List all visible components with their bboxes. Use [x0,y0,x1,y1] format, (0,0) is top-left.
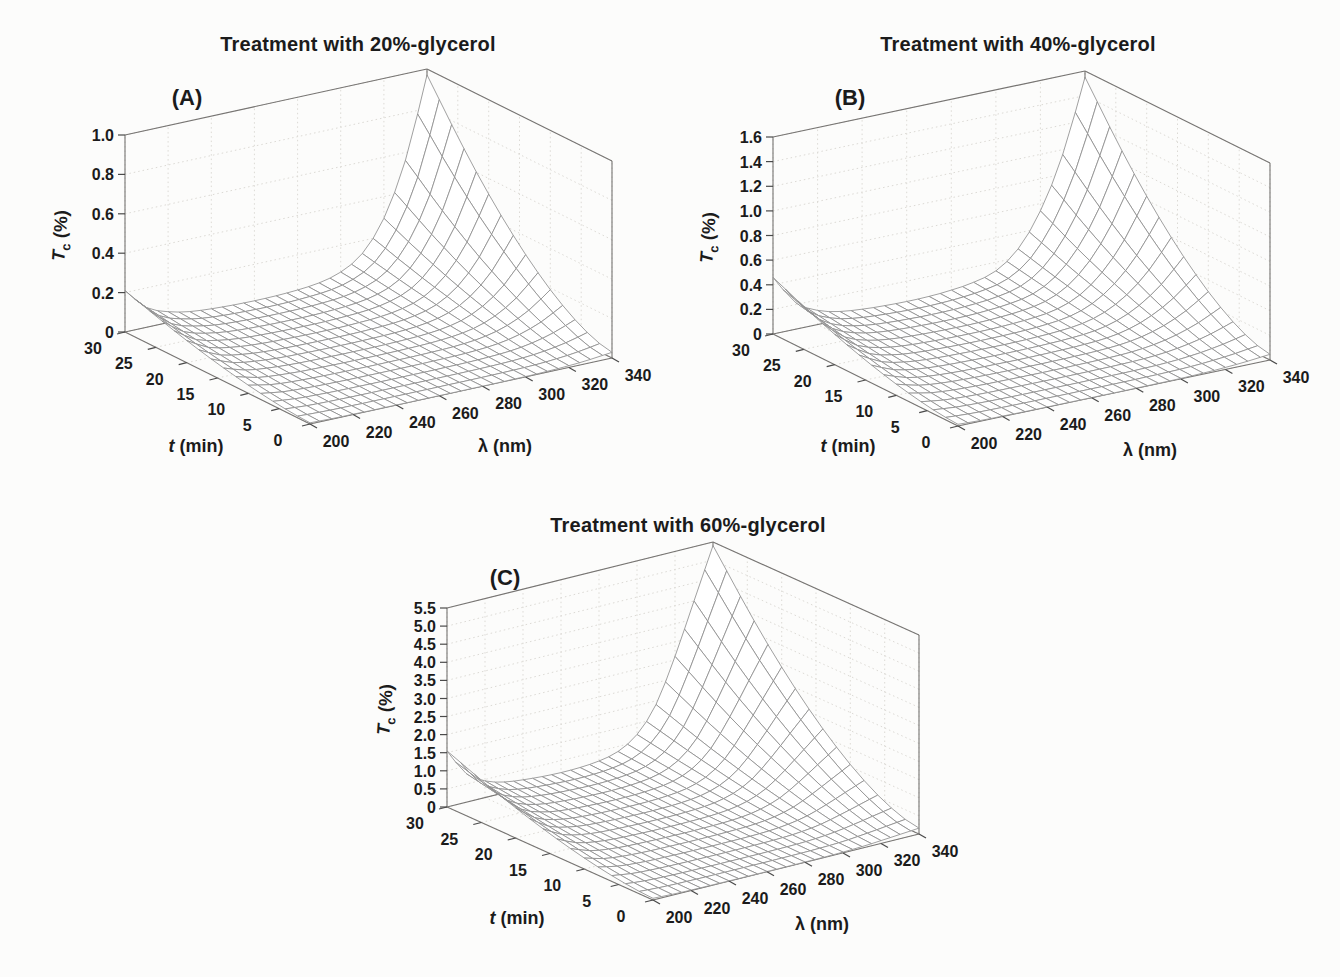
panel-a-z-tick-label: 0.6 [92,206,114,223]
panel-a-t-tick-label: 30 [84,340,102,357]
panel-a: 00.20.40.60.81.0051015202530200220240260… [48,69,651,456]
panel-c-t-tick-label: 10 [543,877,561,894]
panel-c-z-tick-label: 5.0 [414,618,436,635]
panel-b-t-tick-label: 20 [794,373,812,390]
panel-b-x-tick-label: 260 [1104,407,1131,424]
panel-c-z-tick-label: 1.5 [414,745,436,762]
panel-b-x-tick-label: 200 [971,435,998,452]
panel-b-z-tick-label: 0.4 [740,277,762,294]
panel-b-z-tick-label: 1.2 [740,178,762,195]
panel-c-z-tick-label: 3.0 [414,691,436,708]
panel-c-z-tick-label: 2.5 [414,709,436,726]
panel-a-z-axis-label: Tc (%) [48,209,76,262]
panel-b-t-tick-label: 10 [855,403,873,420]
panel-c-t-tick-label: 0 [617,908,626,925]
panel-a-x-tick-label: 340 [625,367,652,384]
panel-b-z-tick-label: 1.6 [740,129,762,146]
figure-canvas: 00.20.40.60.81.0051015202530200220240260… [0,0,1340,977]
panel-c-z-tick-label: 1.0 [414,763,436,780]
panel-b-t-tick-label: 25 [763,357,781,374]
panel-c-title: Treatment with 60%-glycerol [550,514,825,537]
panel-a-mesh-surface [125,75,612,423]
panel-b-y-axis-label: t (min) [821,436,876,456]
panel-b-letter: (B) [835,85,866,111]
panel-a-x-tick-label: 260 [452,405,479,422]
panel-b-mesh-surface [773,77,1270,424]
panel-a-t-tick-label: 20 [146,371,164,388]
panel-a-x-tick-label: 220 [366,424,393,441]
panel-c-t-tick-label: 5 [582,893,591,910]
panel-b-title: Treatment with 40%-glycerol [880,33,1155,56]
panel-a-x-axis-label: λ (nm) [478,436,532,456]
panel-c-x-tick-label: 320 [894,852,921,869]
panel-c-z-tick-label: 0.5 [414,781,436,798]
panel-a-z-tick-label: 0.4 [92,245,114,262]
panel-c-t-tick-label: 30 [406,815,424,832]
panel-b-z-tick-label: 1.4 [740,154,762,171]
panel-a-z-tick-label: 0.2 [92,285,114,302]
panel-c-x-axis-label: λ (nm) [795,914,849,934]
panel-a-z-tick-label: 1.0 [92,127,114,144]
panel-a-title: Treatment with 20%-glycerol [220,33,495,56]
panel-b-z-tick-label: 0.2 [740,301,762,318]
panel-b-x-tick-label: 320 [1238,378,1265,395]
panel-a-x-tick-label: 280 [495,395,522,412]
panel-c-x-tick-label: 220 [704,900,731,917]
panel-c-x-tick-label: 300 [856,862,883,879]
panel-a-y-axis-label: t (min) [169,436,224,456]
panel-a-x-tick-label: 240 [409,414,436,431]
panel-b-t-tick-label: 5 [891,419,900,436]
panel-c-mesh-surface [447,546,919,899]
panel-a-t-tick-label: 0 [274,432,283,449]
panel-a-t-tick-label: 15 [177,386,195,403]
panel-a-x-tick-label: 200 [323,433,350,450]
panel-b-t-tick-label: 30 [732,342,750,359]
panel-a-t-tick-label: 10 [207,401,225,418]
panel-c-x-tick-label: 240 [742,890,769,907]
panel-c-z-tick-label: 3.5 [414,672,436,689]
panel-b-z-axis-label: Tc (%) [696,211,724,264]
panel-b-x-tick-label: 280 [1149,397,1176,414]
panel-a-z-tick-label: 0.8 [92,166,114,183]
panel-a-x-tick-label: 300 [538,386,565,403]
panel-b-z-tick-label: 0 [753,326,762,343]
panel-b-x-axis-label: λ (nm) [1123,440,1177,460]
panel-b-z-tick-label: 1.0 [740,203,762,220]
panel-b-t-tick-label: 15 [825,388,843,405]
panel-c-z-axis-label: Tc (%) [373,683,401,736]
surface-plots-svg: 00.20.40.60.81.0051015202530200220240260… [0,0,1340,977]
panel-b: 00.20.40.60.81.01.21.41.6051015202530200… [696,71,1309,460]
panel-c-z-tick-label: 2.0 [414,727,436,744]
panel-b-z-tick-label: 0.8 [740,228,762,245]
panel-c-x-tick-label: 260 [780,881,807,898]
panel-b-z-tick-label: 0.6 [740,252,762,269]
panel-b-t-tick-label: 0 [922,434,931,451]
panel-c-t-tick-label: 25 [440,831,458,848]
panel-c: 00.51.01.52.02.53.03.54.04.55.05.5051015… [373,542,958,934]
panel-c-x-tick-label: 200 [666,909,693,926]
panel-b-x-tick-label: 300 [1194,388,1221,405]
panel-c-t-tick-label: 15 [509,862,527,879]
panel-a-t-tick-label: 25 [115,355,133,372]
panel-a-t-tick-label: 5 [243,417,252,434]
panel-c-t-tick-label: 20 [475,846,493,863]
panel-c-z-tick-label: 5.5 [414,600,436,617]
panel-b-x-tick-label: 340 [1283,369,1310,386]
panel-c-letter: (C) [490,565,521,591]
panel-c-z-tick-label: 4.5 [414,636,436,653]
panel-c-y-axis-label: t (min) [490,908,545,928]
panel-a-z-tick-label: 0 [105,324,114,341]
panel-a-letter: (A) [172,85,203,111]
panel-b-x-tick-label: 240 [1060,416,1087,433]
panel-c-z-tick-label: 4.0 [414,654,436,671]
panel-b-x-tick-label: 220 [1015,426,1042,443]
panel-c-z-tick-label: 0 [427,799,436,816]
panel-c-x-tick-label: 340 [932,843,959,860]
panel-c-x-tick-label: 280 [818,871,845,888]
panel-a-x-tick-label: 320 [582,376,609,393]
